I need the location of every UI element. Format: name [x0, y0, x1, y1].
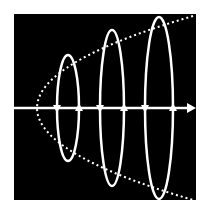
paraboloid-loops-diagram [0, 0, 207, 211]
